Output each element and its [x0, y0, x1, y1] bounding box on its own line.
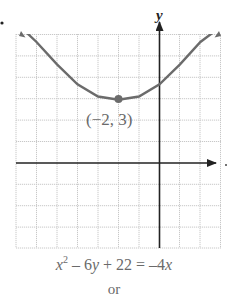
eq-var-x: x	[56, 256, 63, 273]
grid	[16, 34, 221, 248]
eq-var-y: y	[92, 256, 99, 273]
eq-part: + 22 = –4	[99, 256, 165, 273]
or-caption: or	[0, 281, 228, 298]
eq-part: – 6	[68, 256, 92, 273]
equation-caption: x2 – 6y + 22 = –4x	[0, 256, 228, 274]
vertex-label: (−2, 3)	[86, 110, 132, 129]
bullet-dot	[0, 21, 3, 24]
vertex-point	[115, 95, 123, 103]
y-axis-label: y	[154, 7, 163, 23]
x-axis-dot	[225, 164, 227, 166]
parabola-curve	[22, 28, 219, 100]
eq-var-x: x	[165, 256, 172, 273]
